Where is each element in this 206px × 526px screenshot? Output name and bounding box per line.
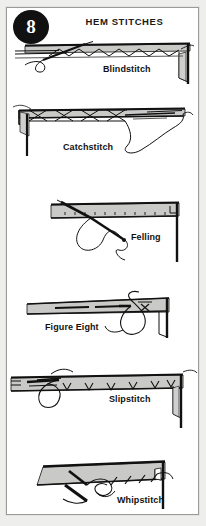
caption-slipstitch: Slipstitch [109,394,151,404]
panel-figure-eight: Figure Eight [7,290,199,352]
caption-blindstitch: Blindstitch [103,64,151,74]
blindstitch-illustration [7,38,199,86]
panel-slipstitch: Slipstitch [7,366,199,432]
catchstitch-illustration [7,100,199,162]
figure-eight-illustration [7,290,199,352]
panel-catchstitch: Catchstitch [7,100,199,162]
caption-felling: Felling [131,232,161,242]
panel-felling: Felling [7,196,199,266]
whipstitch-illustration [7,455,199,513]
reference-card: 8 HEM STITCHES Blindstitch [0,0,206,526]
caption-whipstitch: Whipstitch [117,495,164,505]
caption-catchstitch: Catchstitch [63,142,113,152]
page-title: HEM STITCHES [62,16,187,27]
panel-blindstitch: Blindstitch [7,38,199,86]
felling-illustration [7,196,199,266]
caption-figure-eight: Figure Eight [45,322,99,332]
panel-whipstitch: Whipstitch [7,455,199,513]
slipstitch-illustration [7,366,199,432]
